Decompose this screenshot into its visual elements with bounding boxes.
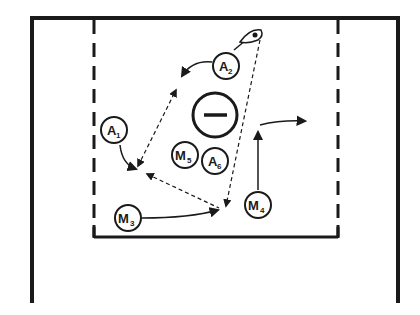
play-diagram: A 1 A 2 M 3 M 4 M 5 A 6 — [0, 0, 420, 315]
stick-with-ball-icon — [234, 30, 262, 50]
player-a6: A 6 — [202, 148, 228, 174]
player-m5: M 5 — [172, 142, 198, 168]
svg-text:6: 6 — [217, 162, 222, 171]
svg-text:2: 2 — [228, 67, 233, 76]
svg-text:5: 5 — [187, 156, 192, 165]
svg-text:4: 4 — [260, 206, 265, 215]
player-m3: M 3 — [115, 205, 141, 231]
svg-text:M: M — [248, 198, 259, 213]
player-a1: A 1 — [101, 117, 127, 143]
svg-text:M: M — [175, 148, 186, 163]
movement-arrows — [120, 62, 305, 218]
svg-text:M: M — [118, 211, 129, 226]
goal-crease — [193, 93, 237, 137]
svg-text:3: 3 — [130, 219, 135, 228]
player-m4: M 4 — [245, 192, 271, 218]
svg-text:1: 1 — [116, 131, 121, 140]
player-a2: A 2 — [213, 53, 239, 79]
